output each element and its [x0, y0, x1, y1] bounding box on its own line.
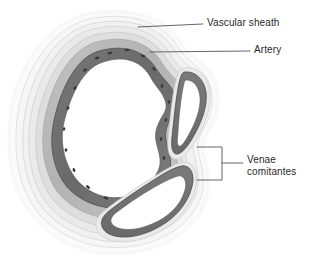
label-venae-comitantes: Venaecomitantes [247, 154, 296, 177]
label-venae-comitantes-line2: comitantes [247, 166, 296, 177]
label-venae-comitantes-line1: Venae [247, 154, 276, 165]
label-artery: Artery [254, 44, 281, 56]
anatomy-illustration [0, 0, 311, 269]
figure-canvas: Vascular sheath Artery Venaecomitantes [0, 0, 311, 269]
label-vascular-sheath: Vascular sheath [207, 17, 279, 29]
